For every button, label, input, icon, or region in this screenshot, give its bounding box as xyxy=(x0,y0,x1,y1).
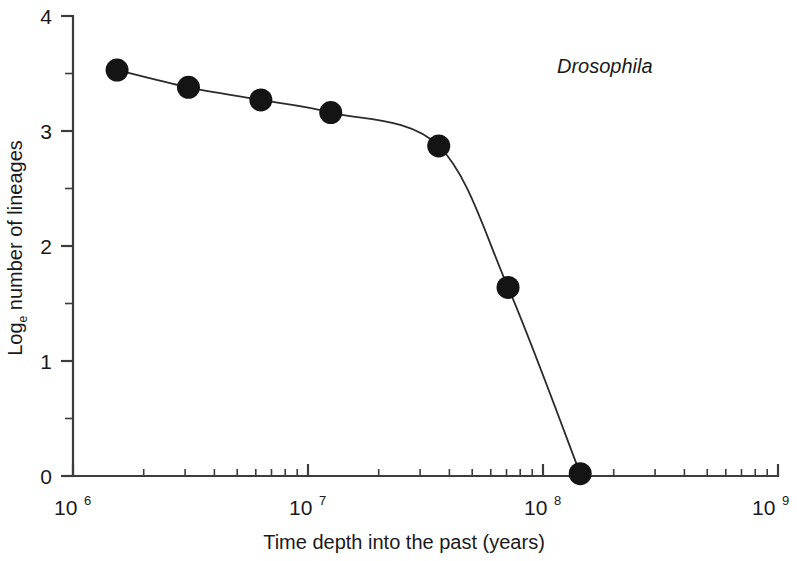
data-point xyxy=(177,76,200,99)
y-tick-label-4: 4 xyxy=(40,5,52,28)
x-axis-title: Time depth into the past (years) xyxy=(263,531,545,553)
data-point xyxy=(427,134,450,157)
data-point xyxy=(497,276,520,299)
data-point xyxy=(569,462,592,485)
data-point xyxy=(249,88,272,111)
y-axis-title-main: Log xyxy=(4,322,26,355)
y-tick-label-2: 2 xyxy=(40,235,52,258)
y-tick-label-0: 0 xyxy=(40,465,52,488)
x-tick-exp-1: 7 xyxy=(319,493,326,508)
x-tick-base-2: 10 xyxy=(524,496,547,519)
data-point xyxy=(319,101,342,124)
y-tick-label-1: 1 xyxy=(40,350,52,373)
x-tick-exp-3: 9 xyxy=(782,493,789,508)
x-tick-base-3: 10 xyxy=(752,496,775,519)
x-tick-base-1: 10 xyxy=(289,496,312,519)
y-axis-title-rest: number of lineages xyxy=(4,140,26,316)
series-annotation-drosophila: Drosophila xyxy=(557,55,653,77)
data-point xyxy=(106,59,129,82)
x-tick-exp-2: 8 xyxy=(554,493,561,508)
x-tick-exp-0: 6 xyxy=(84,493,91,508)
y-tick-label-3: 3 xyxy=(40,120,52,143)
x-tick-base-0: 10 xyxy=(54,496,77,519)
chart-figure: 0 1 2 3 4 10 6 xyxy=(0,0,797,561)
